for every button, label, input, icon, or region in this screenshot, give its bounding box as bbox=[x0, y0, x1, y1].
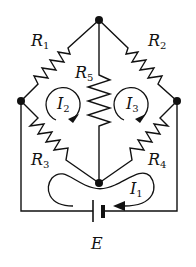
arrow-icon bbox=[135, 114, 146, 123]
resistor-r3 bbox=[21, 101, 99, 183]
label-r5: R5 bbox=[74, 63, 93, 83]
label-r4: R4 bbox=[147, 150, 166, 170]
right-node bbox=[173, 97, 181, 105]
left-node bbox=[17, 97, 25, 105]
arrow-icon bbox=[68, 114, 79, 123]
label-i2: I2 bbox=[56, 94, 70, 114]
label-e: E bbox=[90, 234, 103, 253]
label-i3: I3 bbox=[125, 94, 139, 114]
battery-e bbox=[93, 200, 105, 222]
top-node bbox=[95, 16, 103, 24]
label-r2: R2 bbox=[147, 31, 166, 51]
resistor-r5 bbox=[88, 20, 110, 183]
arrow-icon bbox=[113, 201, 125, 211]
circuit-diagram: R1 R2 R5 R3 R4 I2 I3 I1 E bbox=[0, 0, 196, 267]
label-r3: R3 bbox=[30, 150, 49, 170]
label-r1: R1 bbox=[30, 31, 49, 51]
bottom-node bbox=[95, 179, 103, 187]
label-i1: I1 bbox=[129, 179, 143, 199]
